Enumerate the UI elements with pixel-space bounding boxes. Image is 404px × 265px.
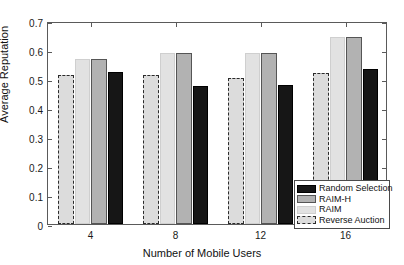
y-tick-label: 0.7	[29, 18, 43, 29]
y-tick-mark	[48, 168, 52, 169]
legend-swatch	[297, 206, 316, 214]
legend-swatch	[297, 185, 316, 193]
legend-item: Reverse Auction	[297, 215, 387, 225]
x-tick-mark-top	[176, 23, 177, 27]
y-tick-mark-right	[382, 52, 386, 53]
y-tick-mark	[48, 197, 52, 198]
x-tick-mark-top	[346, 23, 347, 27]
legend-swatch	[297, 195, 316, 203]
y-tick-mark	[48, 110, 52, 111]
y-tick-label: 0	[37, 221, 43, 232]
y-tick-label: 0.1	[29, 192, 43, 203]
x-tick-label: 8	[173, 230, 179, 241]
bar	[278, 85, 294, 224]
y-tick-mark-right	[382, 110, 386, 111]
legend-swatch	[297, 216, 316, 224]
y-tick-label: 0.2	[29, 163, 43, 174]
bar	[160, 53, 176, 224]
bar	[75, 59, 91, 224]
x-tick-label: 16	[340, 230, 351, 241]
y-tick-mark-right	[382, 168, 386, 169]
x-axis-title: Number of Mobile Users	[0, 247, 404, 259]
bar	[193, 86, 209, 224]
legend-label: RAIM	[319, 205, 342, 214]
scan-artifact-strip	[0, 0, 404, 6]
legend-label: RAIM-H	[319, 195, 351, 204]
legend: Random SelectionRAIM-HRAIMReverse Auctio…	[294, 180, 390, 229]
legend-item: RAIM	[297, 205, 387, 215]
x-tick-label: 12	[255, 230, 266, 241]
y-tick-label: 0.4	[29, 105, 43, 116]
figure-canvas: Average Reputation Number of Mobile User…	[0, 0, 404, 265]
bar	[176, 53, 192, 224]
legend-label: Reverse Auction	[319, 216, 385, 225]
y-tick-mark-right	[382, 139, 386, 140]
y-tick-label: 0.3	[29, 134, 43, 145]
y-tick-mark	[48, 52, 52, 53]
bar	[261, 53, 277, 224]
y-tick-mark	[48, 226, 52, 227]
legend-label: Random Selection	[319, 184, 393, 193]
bar	[245, 53, 261, 224]
y-tick-mark-right	[382, 81, 386, 82]
bar	[228, 78, 244, 224]
x-tick-mark-top	[91, 23, 92, 27]
bar	[143, 75, 159, 224]
legend-item: RAIM-H	[297, 194, 387, 204]
x-tick-mark-top	[261, 23, 262, 27]
y-axis-title: Average Reputation	[0, 26, 10, 123]
y-tick-label: 0.5	[29, 76, 43, 87]
y-tick-label: 0.6	[29, 47, 43, 58]
bar	[58, 75, 74, 224]
y-tick-mark-right	[382, 23, 386, 24]
legend-item: Random Selection	[297, 184, 387, 194]
x-tick-label: 4	[88, 230, 94, 241]
y-tick-mark	[48, 23, 52, 24]
bar	[108, 72, 124, 224]
y-tick-mark	[48, 139, 52, 140]
y-tick-mark	[48, 81, 52, 82]
bar	[91, 59, 107, 224]
